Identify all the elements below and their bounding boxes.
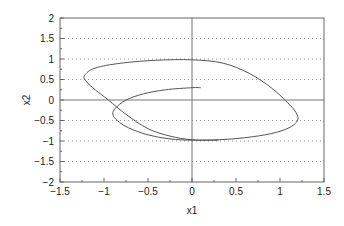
y-tick-label: 2 [48, 13, 54, 24]
x-tick-label: 0.5 [229, 186, 243, 197]
x-tick-label: −1 [98, 186, 110, 197]
y-tick-label: −1 [43, 136, 55, 147]
y-tick-label: 1.5 [40, 33, 54, 44]
x-axis-label: x1 [187, 205, 198, 216]
x-tick-label: 1.5 [317, 186, 331, 197]
y-tick-label: −0.5 [34, 115, 54, 126]
x-tick-label: −1.5 [50, 186, 70, 197]
x-tick-labels: −1.5−1−0.500.511.5 [50, 186, 331, 197]
y-tick-label: 1 [48, 54, 54, 65]
y-tick-label: −1.5 [34, 156, 54, 167]
y-tick-label: 0.5 [40, 74, 54, 85]
x-tick-label: −0.5 [138, 186, 158, 197]
x-tick-label: 1 [277, 186, 283, 197]
y-axis-label: x2 [21, 94, 32, 105]
y-tick-label: −2 [43, 177, 55, 188]
phase-plot: −1.5−1−0.500.511.5 21.510.50−0.5−1−1.5−2… [0, 0, 344, 226]
y-tick-labels: 21.510.50−0.5−1−1.5−2 [34, 13, 54, 188]
x-tick-label: 0 [189, 186, 195, 197]
y-tick-label: 0 [48, 95, 54, 106]
